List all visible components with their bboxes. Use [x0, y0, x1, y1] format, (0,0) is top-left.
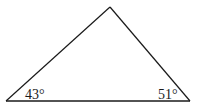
angle-label-bottom-right: 51° — [158, 88, 178, 102]
angle-label-bottom-left: 43° — [25, 88, 45, 102]
right-side — [110, 7, 190, 101]
left-side — [6, 7, 110, 101]
